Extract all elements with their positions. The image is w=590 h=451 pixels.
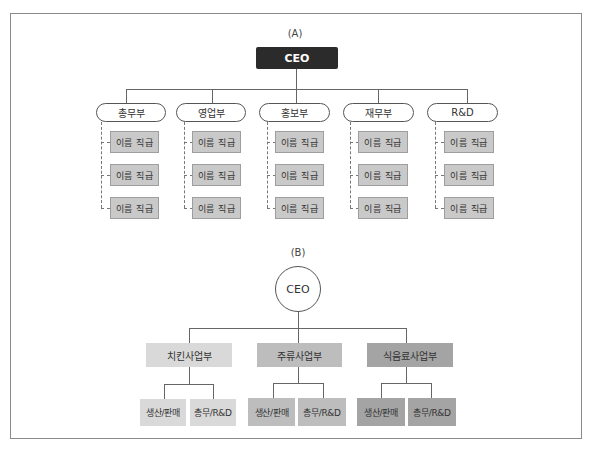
connector-line	[273, 383, 274, 398]
employee-box: 이름 직급	[275, 131, 324, 153]
connector-line	[189, 328, 407, 329]
connector-line	[189, 328, 190, 343]
employee-box: 이름 직급	[444, 197, 494, 219]
department-pill: 홍보부	[259, 103, 330, 122]
connector-line	[126, 89, 127, 103]
connector-line	[164, 384, 214, 385]
ceo-box: CEO	[256, 47, 338, 69]
dotted-connector	[184, 122, 185, 208]
diagram-b-label: (B)	[278, 247, 318, 258]
dotted-connector	[435, 122, 436, 208]
dotted-connector	[435, 175, 444, 176]
dotted-connector	[101, 142, 110, 143]
connector-line	[164, 384, 165, 399]
ceo-circle: CEO	[275, 266, 321, 312]
division-box: 치킨사업부	[146, 343, 232, 367]
connector-line	[467, 89, 468, 103]
employee-box: 이름 직급	[110, 131, 159, 153]
unit-box: 총무/R&D	[298, 398, 346, 426]
unit-box: 총무/R&D	[408, 398, 456, 426]
dotted-connector	[350, 122, 351, 208]
division-box: 식음료사업부	[367, 343, 453, 367]
employee-box: 이름 직급	[110, 197, 159, 219]
employee-box: 이름 직급	[192, 164, 241, 186]
unit-box: 생산/판매	[248, 398, 295, 426]
connector-line	[189, 367, 190, 384]
connector-line	[212, 89, 213, 103]
employee-box: 이름 직급	[275, 197, 324, 219]
connector-line	[406, 328, 407, 343]
employee-box: 이름 직급	[358, 164, 408, 186]
employee-box: 이름 직급	[358, 197, 408, 219]
connector-line	[296, 89, 297, 103]
department-pill: 총무부	[96, 103, 166, 122]
employee-box: 이름 직급	[192, 197, 241, 219]
connector-line	[381, 383, 382, 398]
unit-box: 생산/판매	[357, 398, 405, 426]
dotted-connector	[435, 142, 444, 143]
employee-box: 이름 직급	[275, 164, 324, 186]
dotted-connector	[101, 175, 110, 176]
department-pill: 영업부	[176, 103, 246, 122]
dotted-connector	[267, 122, 268, 208]
employee-box: 이름 직급	[444, 131, 494, 153]
connector-line	[126, 89, 468, 90]
connector-line	[378, 89, 379, 103]
connector-line	[323, 383, 324, 398]
dotted-connector	[435, 208, 444, 209]
employee-box: 이름 직급	[358, 131, 408, 153]
connector-line	[406, 367, 407, 383]
department-pill: 재무부	[343, 103, 414, 122]
diagram-a-label: (A)	[275, 28, 315, 39]
employee-box: 이름 직급	[444, 164, 494, 186]
dotted-connector	[101, 122, 102, 208]
employee-box: 이름 직급	[192, 131, 241, 153]
unit-box: 총무/R&D	[190, 399, 236, 426]
division-box: 주류사업부	[257, 343, 342, 367]
connector-line	[298, 367, 299, 383]
connector-line	[213, 384, 214, 399]
connector-line	[273, 383, 324, 384]
dotted-connector	[101, 208, 110, 209]
connector-line	[381, 383, 432, 384]
employee-box: 이름 직급	[110, 164, 159, 186]
connector-line	[431, 383, 432, 398]
unit-box: 생산/판매	[140, 399, 186, 426]
connector-line	[296, 69, 297, 89]
department-pill: R&D	[427, 103, 498, 122]
